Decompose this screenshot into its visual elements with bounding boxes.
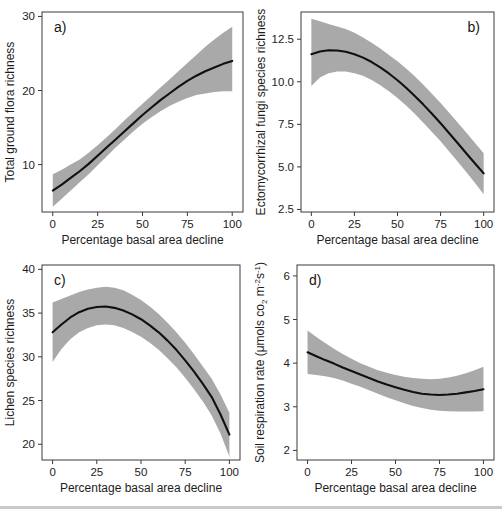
panel-c-plot: 20253035400255075100Percentage basal are… <box>0 255 251 509</box>
panel-tag: c) <box>54 272 66 288</box>
y-tick-label: 25 <box>22 395 35 407</box>
y-tick-label: 5.0 <box>278 161 294 173</box>
y-tick-label: 2.5 <box>278 203 294 215</box>
confidence-band <box>308 330 484 411</box>
x-tick-label: 0 <box>49 466 55 478</box>
x-tick-label: 25 <box>90 466 103 478</box>
y-tick-label: 4 <box>284 357 291 369</box>
panel-a: 1020300255075100Percentage basal area de… <box>0 0 251 254</box>
x-tick-label: 0 <box>308 218 314 230</box>
y-tick-label: 40 <box>22 263 35 275</box>
y-axis-title: Lichen species richness <box>3 299 17 426</box>
x-tick-label: 0 <box>304 466 310 478</box>
panel-tag: d) <box>309 272 321 288</box>
y-axis-title: Ectomycorrhizal fungi species richness <box>254 9 268 216</box>
confidence-band <box>53 27 232 207</box>
panel-c: 20253035400255075100Percentage basal are… <box>0 255 251 509</box>
x-tick-label: 100 <box>474 218 493 230</box>
panel-d-plot: 234560255075100Percentage basal area dec… <box>251 255 502 509</box>
x-tick-label: 75 <box>433 466 446 478</box>
panel-tag: b) <box>468 19 480 35</box>
figure-container: 1020300255075100Percentage basal area de… <box>0 0 502 509</box>
x-tick-label: 75 <box>181 218 194 230</box>
y-tick-label: 30 <box>22 351 35 363</box>
x-tick-label: 75 <box>179 466 192 478</box>
y-tick-label: 10 <box>22 159 35 171</box>
x-tick-label: 75 <box>434 218 447 230</box>
y-tick-label: 10.0 <box>272 76 294 88</box>
x-tick-label: 100 <box>474 466 493 478</box>
x-tick-label: 50 <box>135 466 148 478</box>
y-tick-label: 30 <box>22 10 35 22</box>
x-axis-title: Percentage basal area decline <box>314 481 476 495</box>
confidence-band <box>311 19 483 194</box>
y-tick-label: 20 <box>22 438 35 450</box>
y-axis-title: Total ground flora richness <box>3 42 17 183</box>
panel-b: 2.55.07.510.012.50255075100Percentage ba… <box>251 0 502 254</box>
x-tick-label: 100 <box>220 466 239 478</box>
x-tick-label: 25 <box>91 218 104 230</box>
x-axis-title: Percentage basal area decline <box>60 481 222 495</box>
panel-grid: 1020300255075100Percentage basal area de… <box>0 0 502 509</box>
panel-d: 234560255075100Percentage basal area dec… <box>251 255 502 509</box>
y-tick-label: 6 <box>284 270 290 282</box>
y-tick-label: 12.5 <box>272 33 294 45</box>
y-tick-label: 5 <box>284 314 290 326</box>
x-axis-title: Percentage basal area decline <box>61 233 223 247</box>
x-tick-label: 50 <box>136 218 149 230</box>
x-tick-label: 0 <box>50 218 56 230</box>
y-tick-label: 2 <box>284 444 290 456</box>
x-axis-title: Percentage basal area decline <box>316 233 478 247</box>
panel-b-plot: 2.55.07.510.012.50255075100Percentage ba… <box>251 0 502 255</box>
x-tick-label: 100 <box>223 218 242 230</box>
plot-frame <box>42 265 240 460</box>
x-tick-label: 50 <box>389 466 402 478</box>
y-axis-title: Soil respiration rate (μmols co2 m-2s-1) <box>253 262 269 463</box>
y-tick-label: 3 <box>284 401 290 413</box>
y-tick-label: 20 <box>22 85 35 97</box>
panel-tag: a) <box>54 19 66 35</box>
y-tick-label: 7.5 <box>278 118 294 130</box>
x-tick-label: 25 <box>345 466 358 478</box>
x-tick-label: 25 <box>348 218 361 230</box>
y-tick-label: 35 <box>22 307 35 319</box>
panel-a-plot: 1020300255075100Percentage basal area de… <box>0 0 251 255</box>
x-tick-label: 50 <box>391 218 404 230</box>
